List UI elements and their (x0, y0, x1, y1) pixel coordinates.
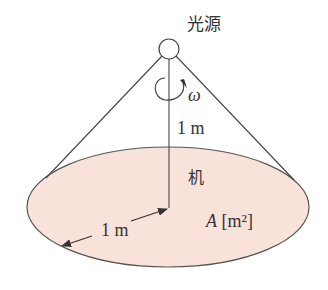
cone-diagram (0, 0, 328, 290)
radius-label: 1 m (101, 220, 129, 241)
light-source-circle (159, 39, 179, 59)
area-unit: [m²] (222, 211, 253, 231)
desk-ellipse (27, 147, 309, 267)
angular-velocity-label: ω (188, 85, 201, 106)
area-label: A [m²] (206, 211, 253, 232)
height-label: 1 m (177, 118, 205, 139)
desk-label: 机 (188, 164, 204, 188)
area-symbol: A (206, 211, 217, 231)
light-source-label: 光源 (187, 10, 221, 35)
